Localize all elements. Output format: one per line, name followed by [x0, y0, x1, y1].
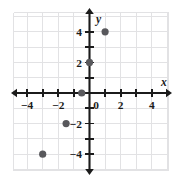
data-point: [86, 59, 93, 66]
data-point: [78, 89, 85, 96]
coordinate-plane-graph: −4−202442−2−4 yx: [0, 0, 176, 177]
grid-layer: [14, 13, 169, 171]
x-tick-label: 2: [118, 99, 124, 111]
x-tick-label: 0: [93, 99, 99, 111]
y-axis-arrow-up: [85, 8, 94, 14]
y-tick-label: 4: [76, 26, 82, 38]
y-axis-arrow-down: [85, 169, 94, 175]
graph-canvas: −4−202442−2−4 yx: [0, 0, 176, 177]
x-tick-label: −2: [52, 99, 64, 111]
data-point: [39, 151, 46, 158]
x-axis-label: x: [160, 76, 167, 89]
y-tick-label: −4: [70, 148, 82, 160]
y-axis-label: y: [94, 13, 102, 26]
x-tick-label: −4: [21, 99, 33, 111]
y-tick-label: −2: [70, 118, 82, 130]
x-tick-label: 4: [149, 99, 155, 111]
y-tick-label: 2: [76, 57, 82, 69]
data-point: [63, 120, 70, 127]
axes-layer: [11, 8, 172, 175]
data-point: [102, 28, 109, 35]
